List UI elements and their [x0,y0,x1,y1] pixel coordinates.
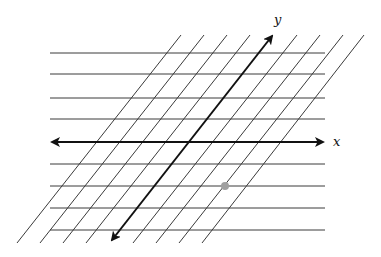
grid-line-s [63,35,227,243]
x-axis-label: x [333,134,341,149]
grid-line-s [156,35,320,243]
grid-line-s [179,35,343,243]
y-axis [112,36,272,240]
grid-line-s [40,35,204,243]
highlighted-point [221,182,229,190]
skewed-grid-diagram: x y [0,0,381,257]
grid-line-s [133,35,297,243]
axes [52,36,323,240]
grid-line-s [17,35,181,243]
grid-line-s [86,35,250,243]
y-axis-label: y [273,12,282,27]
